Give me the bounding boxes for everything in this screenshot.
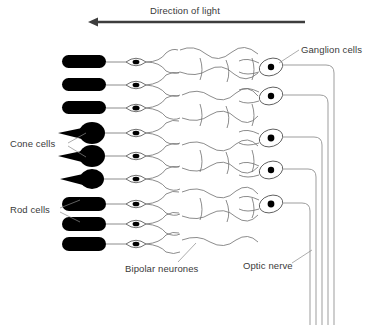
photoreceptor-axons (104, 62, 126, 244)
rod-cell (62, 101, 106, 114)
bipolar-neuron (126, 72, 180, 96)
cone-cells-label: Cone cells (10, 138, 55, 149)
retina-diagram: Direction of light Ganglion cells Cone c… (0, 0, 366, 325)
bipolar-neurones-label: Bipolar neurones (125, 263, 198, 274)
direction-of-light-arrow (88, 18, 305, 27)
ganglion-cell (239, 158, 285, 182)
bipolar-neuron-layer (126, 49, 180, 253)
cone-cell (58, 145, 105, 167)
rod-cell (62, 55, 106, 68)
bipolar-neuron (126, 191, 180, 215)
ganglion-cell-layer (239, 55, 285, 216)
bipolar-neuron (126, 143, 180, 167)
rod-cells-label: Rod cells (10, 204, 50, 215)
ganglion-cells-label: Ganglion cells (301, 44, 362, 55)
photoreceptor-layer (58, 55, 106, 251)
cone-cell (58, 122, 105, 144)
ganglion-cell (239, 84, 285, 108)
interconnecting-network (180, 47, 258, 245)
ganglion-cell (239, 192, 285, 216)
ganglion-cell (239, 126, 285, 150)
bipolar-neuron (126, 166, 180, 190)
rod-cell (62, 197, 106, 211)
rod-cell (62, 217, 106, 231)
bipolar-neuron (126, 232, 180, 253)
ganglion-cell (239, 55, 285, 79)
rod-cell (62, 237, 106, 251)
direction-of-light-label: Direction of light (150, 5, 220, 16)
bipolar-neuron (126, 212, 180, 235)
bipolar-neuron (126, 49, 180, 73)
bipolar-neuron (126, 120, 180, 144)
optic-nerve-fibers (282, 65, 334, 325)
optic-nerve-label: Optic nerve (243, 260, 293, 271)
cone-cell (60, 169, 104, 189)
rod-cell (62, 78, 106, 91)
bipolar-neuron (126, 95, 180, 119)
